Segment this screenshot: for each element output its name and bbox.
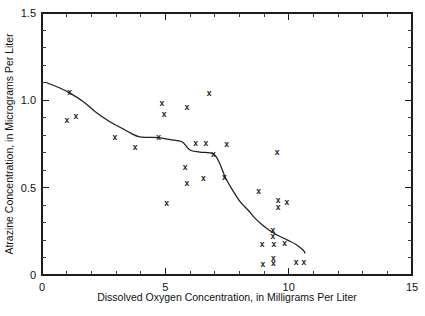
data-point-marker: x xyxy=(271,239,276,249)
data-point-marker: x xyxy=(275,147,280,157)
data-point-marker: x xyxy=(302,257,307,267)
data-point-marker: x xyxy=(162,109,167,119)
data-point-marker: x xyxy=(160,98,165,108)
x-axis-title: Dissolved Oxygen Concentration, in Milli… xyxy=(97,291,357,303)
y-axis-title: Atrazine Concentration, in Micrograms Pe… xyxy=(3,33,15,255)
data-point-marker: x xyxy=(65,115,70,125)
data-point-marker: x xyxy=(112,132,117,142)
data-point-marker: x xyxy=(271,258,276,268)
data-point-marker: x xyxy=(184,102,189,112)
y-axis-tick-labels: 00.51.01.5 xyxy=(21,7,36,281)
data-point-marker: x xyxy=(207,88,212,98)
data-point-marker: x xyxy=(224,139,229,149)
y-tick-label: 0.5 xyxy=(21,182,36,194)
data-point-marker: x xyxy=(294,257,299,267)
y-tick-label: 0 xyxy=(30,269,36,281)
data-point-marker: x xyxy=(183,162,188,172)
data-point-markers: xxxxxxxxxxxxxxxxxxxxxxxxxxxxxxxxxx xyxy=(65,87,307,269)
data-point-marker: x xyxy=(156,132,161,142)
data-point-marker: x xyxy=(211,149,216,159)
scatter-plot-figure: 051015 00.51.01.5 xxxxxxxxxxxxxxxxxxxxxx… xyxy=(0,0,425,316)
data-point-marker: x xyxy=(260,239,265,249)
data-point-marker: x xyxy=(133,142,138,152)
data-point-marker: x xyxy=(276,202,281,212)
data-point-marker: x xyxy=(193,138,198,148)
x-tick-label: 15 xyxy=(406,281,418,293)
data-point-marker: x xyxy=(282,238,287,248)
y-tick-label: 1.5 xyxy=(21,7,36,19)
data-point-marker: x xyxy=(184,178,189,188)
plot-canvas: 051015 00.51.01.5 xxxxxxxxxxxxxxxxxxxxxx… xyxy=(0,0,425,316)
data-point-marker: x xyxy=(201,173,206,183)
lowess-path xyxy=(46,83,305,253)
lowess-trend-line xyxy=(46,83,305,253)
data-point-marker: x xyxy=(260,259,265,269)
data-point-marker: x xyxy=(285,197,290,207)
data-point-marker: x xyxy=(164,198,169,208)
data-point-marker: x xyxy=(222,172,227,182)
data-point-marker: x xyxy=(203,138,208,148)
y-tick-label: 1.0 xyxy=(21,94,36,106)
data-point-marker: x xyxy=(256,186,261,196)
data-point-marker: x xyxy=(67,87,72,97)
data-point-marker: x xyxy=(73,111,78,121)
x-tick-label: 0 xyxy=(39,281,45,293)
